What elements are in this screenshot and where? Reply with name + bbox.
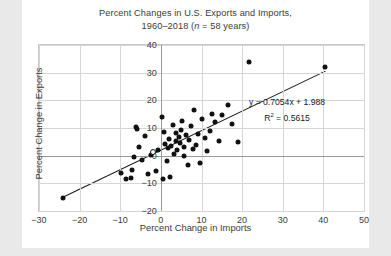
scatter-point	[128, 175, 133, 180]
scatter-point	[323, 65, 328, 70]
scatter-point	[219, 113, 224, 118]
gridline-horizontal	[39, 45, 364, 46]
scatter-point	[175, 148, 180, 153]
scatter-point	[188, 124, 193, 129]
scatter-point	[247, 59, 252, 64]
scatter-point	[167, 175, 172, 180]
scatter-point	[164, 159, 169, 164]
y-axis-title: Percent Change in Exports	[33, 49, 44, 199]
r-squared-value: R2 = 0.5615	[228, 109, 346, 125]
scatter-point	[119, 170, 124, 175]
chart-title-line2-pre: 1960–2018 (	[142, 21, 195, 31]
scatter-point	[216, 138, 221, 143]
scatter-point	[210, 111, 215, 116]
trendline	[63, 71, 325, 197]
scatter-point	[134, 127, 139, 132]
scatter-point	[213, 120, 218, 125]
scatter-point	[61, 195, 66, 200]
chart-title: Percent Changes in U.S. Exports and Impo…	[22, 7, 369, 32]
y-axis-line	[161, 45, 162, 211]
scatter-point	[193, 142, 198, 147]
scatter-point	[159, 114, 164, 119]
scatter-point	[140, 157, 145, 162]
scatter-point	[185, 163, 190, 168]
y-axis-tick-label: −20	[142, 206, 157, 216]
y-axis-tick-label: 10	[147, 123, 157, 133]
scatter-point	[169, 144, 174, 149]
scatter-point	[176, 134, 181, 139]
chart-title-line2-post: = 58 years)	[199, 21, 249, 31]
y-axis-tick-label: 20	[147, 95, 157, 105]
x-axis-line	[39, 156, 364, 157]
y-axis-tick-label: 40	[147, 40, 157, 50]
chart-title-line1: Percent Changes in U.S. Exports and Impo…	[99, 8, 292, 18]
scatter-point	[197, 160, 202, 165]
gridline-horizontal	[39, 73, 364, 74]
y-axis-tick-label: −10	[142, 178, 157, 188]
regression-annotation: y = 0.7054x + 1.988 R2 = 0.5615	[228, 96, 346, 125]
gridline-horizontal	[39, 128, 364, 129]
scatter-point	[202, 135, 207, 140]
scatter-point	[142, 133, 147, 138]
gridline-vertical	[364, 45, 365, 211]
scatter-point	[150, 149, 156, 155]
scatter-point	[132, 154, 137, 159]
scatter-point	[129, 168, 134, 173]
scatter-point	[160, 177, 165, 182]
scatter-point	[162, 130, 167, 135]
scatter-point	[190, 147, 195, 152]
scatter-point	[182, 153, 187, 158]
r-squared-number: = 0.5615	[274, 113, 310, 123]
scatter-point	[179, 127, 184, 132]
scatter-point	[154, 169, 159, 174]
scatter-point	[207, 128, 212, 133]
scatter-point	[196, 132, 201, 137]
gridline-horizontal	[39, 183, 364, 184]
scatter-point	[167, 137, 172, 142]
regression-equation: y = 0.7054x + 1.988	[228, 96, 346, 109]
scatter-point	[136, 145, 141, 150]
scatter-point	[236, 139, 241, 144]
scatter-point	[171, 123, 176, 128]
plot-area: −30−20−1001020304050−20−10010203040	[38, 44, 365, 212]
scatter-point	[180, 118, 185, 123]
x-axis-title: Percent Change in Imports	[22, 222, 369, 233]
scatter-point	[200, 117, 205, 122]
scatter-point	[145, 172, 150, 177]
scatter-point	[156, 147, 161, 152]
scatter-point	[187, 137, 192, 142]
y-axis-tick-label: 30	[147, 68, 157, 78]
scatter-point	[205, 149, 210, 154]
scatter-point	[181, 145, 186, 150]
scatter-point	[192, 108, 197, 113]
chart-figure: Percent Changes in U.S. Exports and Impo…	[22, 0, 369, 248]
gridline-horizontal	[39, 211, 364, 212]
